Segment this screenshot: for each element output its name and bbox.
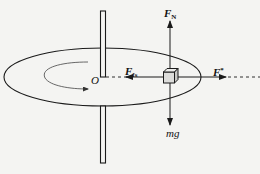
normal-force-label: FN [164,8,176,21]
rotation-arrow-icon [44,62,88,89]
weight-label: mg [166,128,179,139]
fictitious-force-sup: * [220,66,224,74]
friction-force-sub: fs [132,71,137,79]
origin-label: O [91,75,99,86]
normal-force-sub: N [171,13,176,21]
diagram-canvas: FN Ffs F* O mg [0,0,260,174]
axle-top [101,11,106,77]
fictitious-force-label: F* [213,67,224,78]
block-icon [164,69,179,84]
diagram-svg [0,0,260,174]
friction-force-label: Ffs [125,66,137,79]
axle-bottom [101,106,106,163]
